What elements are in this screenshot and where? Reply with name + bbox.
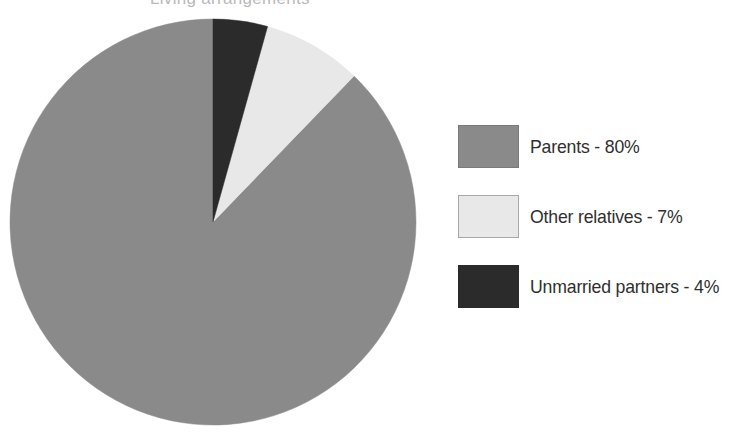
- legend-label-unmarried-partners: Unmarried partners - 4%: [530, 265, 719, 308]
- legend-item-other-relatives[interactable]: Other relatives - 7%: [458, 195, 744, 238]
- legend-item-unmarried-partners[interactable]: Unmarried partners - 4%: [458, 265, 744, 308]
- legend-label-other-relatives: Other relatives - 7%: [530, 195, 682, 238]
- pie-svg: [0, 0, 440, 437]
- legend-swatch-unmarried-partners: [458, 265, 519, 308]
- legend-label-parents: Parents - 80%: [530, 125, 640, 168]
- legend-swatch-other-relatives: [458, 195, 519, 238]
- pie-slice-group: [10, 19, 416, 425]
- chart-legend: Parents - 80% Other relatives - 7% Unmar…: [458, 125, 744, 308]
- pie-chart-figure: Living arrangements Parents - 80% Other …: [0, 0, 744, 437]
- legend-item-parents[interactable]: Parents - 80%: [458, 125, 744, 168]
- pie-chart-plot-area: [0, 0, 440, 437]
- legend-swatch-parents: [458, 125, 519, 168]
